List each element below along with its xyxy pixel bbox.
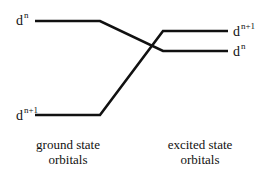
excited-dn-superscript: n: [241, 41, 246, 51]
ground-state-caption-line1: ground state: [18, 137, 118, 152]
dn-correlation-line: [35, 21, 228, 51]
ground-dn1-label: dn+1: [16, 109, 38, 123]
ground-dn-superscript: n: [24, 10, 29, 20]
excited-dn1-base: d: [233, 24, 240, 39]
ground-state-caption: ground state orbitals: [18, 137, 118, 167]
excited-dn1-label: dn+1: [233, 25, 255, 39]
ground-dn1-base: d: [16, 108, 23, 123]
ground-state-caption-line2: orbitals: [18, 152, 118, 167]
ground-dn1-superscript: n+1: [24, 105, 38, 115]
excited-dn-base: d: [233, 44, 240, 59]
excited-state-caption: excited state orbitals: [145, 137, 255, 167]
excited-state-caption-line2: orbitals: [145, 152, 255, 167]
ground-dn-label: dn: [16, 14, 29, 28]
excited-state-caption-line1: excited state: [145, 137, 255, 152]
excited-dn-label: dn: [233, 45, 246, 59]
ground-dn-base: d: [16, 13, 23, 28]
excited-dn1-superscript: n+1: [241, 21, 255, 31]
dn1-correlation-line: [35, 31, 228, 115]
